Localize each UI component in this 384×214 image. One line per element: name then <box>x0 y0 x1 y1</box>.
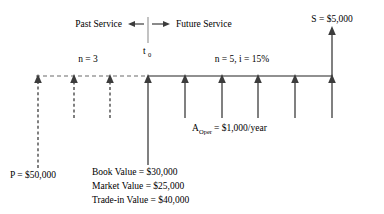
annual-cost-label-subscript: Oper <box>199 128 213 135</box>
cash-flow-arrow-S <box>328 26 336 76</box>
salvage-label: S = $5,000 <box>311 14 353 24</box>
cash-flow-arrow-defender-value <box>144 74 152 165</box>
cash-flow-arrow-A-oper-4 <box>291 74 299 118</box>
p-value-label: P = $50,000 <box>10 170 56 180</box>
annual-cost-label-rest: = $1,000/year <box>214 123 268 133</box>
market-value-label: Market Value = $25,000 <box>92 181 184 191</box>
past-direction-arrow <box>128 21 144 27</box>
cash-flow-arrow-P <box>34 74 42 168</box>
tradein-value-label: Trade-in Value = $40,000 <box>92 195 189 205</box>
cash-flow-arrow-A-oper-3 <box>254 74 262 118</box>
future-direction-arrow <box>152 21 170 27</box>
book-value-label: Book Value = $30,000 <box>92 167 178 177</box>
time-zero-label-main: t <box>143 46 146 56</box>
cash-flow-arrow-A-oper-1 <box>181 74 189 118</box>
cash-flow-svg: Past Service Future Service t 0 n = 3 n … <box>0 0 384 214</box>
past-service-label: Past Service <box>75 19 122 29</box>
future-service-label: Future Service <box>176 19 232 29</box>
annual-cost-label: A Oper = $1,000/year <box>192 123 268 135</box>
cash-flow-arrow-A-oper-5 <box>328 74 336 118</box>
cash-flow-diagram: Past Service Future Service t 0 n = 3 n … <box>0 0 384 214</box>
time-zero-label: t 0 <box>143 46 151 58</box>
cash-flow-arrow-past-2 <box>70 74 78 118</box>
n-past-label: n = 3 <box>78 54 98 64</box>
time-zero-label-subscript: 0 <box>148 51 151 58</box>
annual-cost-label-main: A <box>192 123 199 133</box>
n-future-label: n = 5, i = 15% <box>215 54 270 64</box>
cash-flow-arrow-past-1 <box>106 74 114 118</box>
cash-flow-arrow-A-oper-2 <box>218 74 226 118</box>
